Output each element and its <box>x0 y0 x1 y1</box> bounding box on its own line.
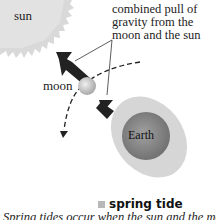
spring-tide-diagram: sun moon combined pull of gravity from t… <box>0 0 216 220</box>
moon-label: moon <box>43 78 73 94</box>
combined-pull-line-3: moon and the sun <box>112 29 216 42</box>
legend-swatch-icon <box>98 201 105 208</box>
sun-label: sun <box>14 8 32 24</box>
sun-icon <box>0 0 74 58</box>
legend: spring tide <box>98 197 183 211</box>
earth-label: Earth <box>128 128 154 143</box>
legend-label: spring tide <box>109 197 183 211</box>
caption: Spring tides occur when the sun and the … <box>3 210 216 220</box>
orbit-arrowhead-icon <box>60 131 68 138</box>
combined-pull-label: combined pull of gravity from the moon a… <box>112 3 216 42</box>
moon-icon <box>78 77 96 95</box>
